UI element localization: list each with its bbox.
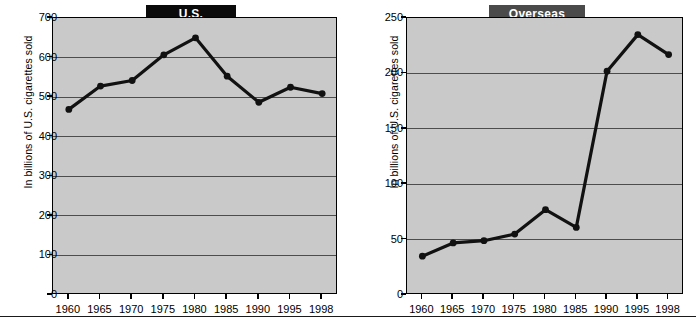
y-axis-tick-label: 200 — [369, 67, 403, 78]
data-point — [65, 106, 72, 113]
x-axis-tick-mark — [225, 294, 227, 299]
y-axis-title-overseas: In billions of U.S. cigarettes sold — [388, 0, 400, 232]
y-axis-tick-mark — [401, 127, 406, 129]
y-axis-tick-label: 50 — [369, 233, 403, 244]
y-axis-tick-mark — [401, 72, 406, 74]
x-axis-tick-mark — [289, 294, 291, 299]
plot-area-overseas — [406, 17, 683, 294]
x-axis-ticks-overseas: 196019651970197519801985199019951998 — [406, 299, 683, 317]
data-point — [542, 206, 549, 213]
dual-line-chart-figure: In billions of U.S. cigarettes sold U.S.… — [0, 0, 696, 325]
data-point — [419, 253, 426, 260]
data-point — [97, 83, 104, 90]
x-axis-tick-mark — [99, 294, 101, 299]
x-axis-tick-label: 1998 — [648, 303, 688, 315]
x-axis-tick-label: 1998 — [301, 303, 341, 315]
y-axis-tick-mark — [401, 293, 406, 295]
x-axis-tick-mark — [257, 294, 259, 299]
data-point — [129, 77, 136, 84]
data-point — [634, 31, 641, 38]
y-axis-tick-mark — [47, 95, 52, 97]
y-axis-tick-mark — [401, 16, 406, 18]
y-axis-tick-mark — [401, 182, 406, 184]
data-point — [192, 34, 199, 41]
series-line-us — [53, 18, 338, 295]
x-axis-tick-mark — [544, 294, 546, 299]
data-point — [255, 99, 262, 106]
data-point — [224, 73, 231, 80]
data-point — [511, 231, 518, 238]
x-axis-tick-mark — [67, 294, 69, 299]
x-axis-tick-mark — [320, 294, 322, 299]
y-axis-tick-label: 150 — [369, 122, 403, 133]
data-point — [573, 224, 580, 231]
y-axis-tick-mark — [47, 293, 52, 295]
x-axis-tick-mark — [636, 294, 638, 299]
x-axis-tick-mark — [194, 294, 196, 299]
y-axis-tick-mark — [47, 56, 52, 58]
y-axis-title-us: In billions of U.S. cigarettes sold — [22, 0, 34, 232]
data-point — [319, 90, 326, 97]
chart-panel-us: In billions of U.S. cigarettes sold U.S.… — [0, 0, 348, 325]
data-point — [287, 84, 294, 91]
y-axis-tick-label: 250 — [369, 12, 403, 23]
y-axis-tick-label: 100 — [369, 178, 403, 189]
footer-divider — [0, 316, 696, 317]
y-axis-tick-mark — [47, 175, 52, 177]
x-axis-tick-mark — [513, 294, 515, 299]
data-point — [481, 237, 488, 244]
y-axis-tick-mark — [47, 214, 52, 216]
y-axis-tick-mark — [47, 254, 52, 256]
x-axis-tick-mark — [451, 294, 453, 299]
x-axis-tick-mark — [667, 294, 669, 299]
y-axis-tick-mark — [47, 16, 52, 18]
data-point — [604, 68, 611, 75]
y-axis-tick-mark — [401, 238, 406, 240]
x-axis-tick-mark — [421, 294, 423, 299]
x-axis-tick-mark — [162, 294, 164, 299]
x-axis-tick-mark — [130, 294, 132, 299]
y-axis-tick-mark — [47, 135, 52, 137]
chart-panel-overseas: In billions of U.S. cigarettes sold Over… — [348, 0, 696, 325]
data-point — [160, 51, 167, 58]
y-axis-tick-label: 0 — [369, 289, 403, 300]
x-axis-ticks-us: 196019651970197519801985199019951998 — [52, 299, 337, 317]
plot-area-us — [52, 17, 337, 294]
data-point — [450, 240, 457, 247]
x-axis-tick-mark — [605, 294, 607, 299]
x-axis-tick-mark — [482, 294, 484, 299]
data-point — [665, 51, 672, 58]
x-axis-tick-mark — [575, 294, 577, 299]
series-line-overseas — [407, 18, 684, 295]
